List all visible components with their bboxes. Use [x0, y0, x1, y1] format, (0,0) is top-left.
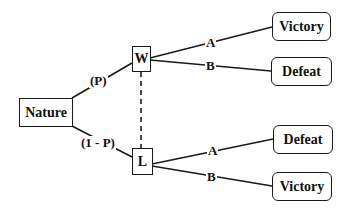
node-w-label: W: [135, 51, 149, 67]
outcome-l-b-victory: Victory: [272, 172, 332, 201]
node-nature: Nature: [19, 98, 73, 127]
action-label-w-a: A: [205, 36, 216, 50]
action-label-l-a: A: [207, 144, 218, 158]
node-w: W: [132, 46, 151, 72]
outcome-l-a-defeat: Defeat: [273, 125, 333, 154]
node-nature-label: Nature: [25, 105, 67, 121]
outcome-w-a-victory: Victory: [272, 12, 331, 41]
action-label-w-b: B: [205, 59, 216, 73]
branch-label-1-minus-p: (1 - P): [80, 136, 116, 150]
outcome-w-b-defeat: Defeat: [271, 57, 332, 86]
outcome-label: Defeat: [282, 64, 321, 80]
branch-label-p: (P): [89, 74, 108, 88]
node-l-label: L: [138, 154, 147, 170]
outcome-label: Victory: [279, 19, 324, 35]
outcome-label: Victory: [280, 179, 325, 195]
outcome-label: Defeat: [284, 132, 323, 148]
action-label-l-b: B: [206, 170, 217, 184]
node-l: L: [132, 148, 153, 175]
